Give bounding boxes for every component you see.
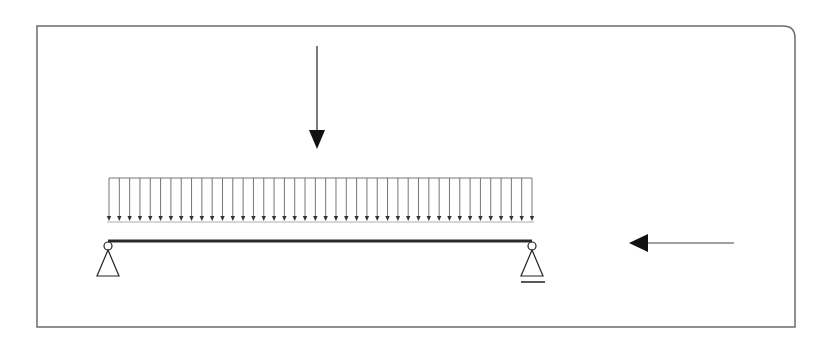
- distributed-load-arrowhead: [365, 216, 369, 221]
- distributed-load-arrowhead: [323, 216, 327, 221]
- diagram-canvas: [0, 0, 829, 344]
- distributed-load-arrow: [519, 178, 523, 221]
- distributed-load-arrowhead: [499, 216, 503, 221]
- distributed-load-arrow: [303, 178, 307, 221]
- distributed-load-arrow: [117, 178, 121, 221]
- distributed-load-arrowhead: [272, 216, 276, 221]
- distributed-load-arrowhead: [509, 216, 513, 221]
- frame-border: [37, 26, 795, 327]
- distributed-load-arrow: [530, 178, 534, 221]
- distributed-load-arrowhead: [262, 216, 266, 221]
- distributed-load-arrow: [478, 178, 482, 221]
- distributed-load-arrowhead: [385, 216, 389, 221]
- distributed-load-arrowhead: [530, 216, 534, 221]
- distributed-load-arrowhead: [179, 216, 183, 221]
- pin-triangle: [97, 250, 119, 276]
- roller-support-right: [521, 242, 545, 282]
- distributed-load-arrowhead: [210, 216, 214, 221]
- point-load-arrowhead: [309, 130, 325, 149]
- pin-support-left: [97, 242, 119, 276]
- distributed-load-arrow: [458, 178, 462, 221]
- distributed-load-arrow: [509, 178, 513, 221]
- distributed-load-arrowhead: [468, 216, 472, 221]
- distributed-load-arrowhead: [220, 216, 224, 221]
- distributed-load-arrow: [385, 178, 389, 221]
- distributed-load-arrow: [127, 178, 131, 221]
- distributed-load-arrowhead: [282, 216, 286, 221]
- distributed-load-arrowhead: [354, 216, 358, 221]
- distributed-load-arrowhead: [117, 216, 121, 221]
- distributed-load-arrowhead: [127, 216, 131, 221]
- beam-diagram: [0, 0, 829, 344]
- distributed-load-arrowhead: [303, 216, 307, 221]
- distributed-load-arrowhead: [251, 216, 255, 221]
- distributed-load-arrow: [375, 178, 379, 221]
- distributed-load-arrow: [334, 178, 338, 221]
- distributed-load-arrow: [138, 178, 142, 221]
- distributed-load-arrow: [416, 178, 420, 221]
- distributed-load-arrowhead: [437, 216, 441, 221]
- distributed-load-arrowhead: [406, 216, 410, 221]
- distributed-load-arrowhead: [107, 216, 111, 221]
- distributed-load-arrow: [427, 178, 431, 221]
- distributed-load-arrowhead: [148, 216, 152, 221]
- distributed-load-arrow: [231, 178, 235, 221]
- distributed-load-arrowhead: [447, 216, 451, 221]
- distributed-load-arrowhead: [416, 216, 420, 221]
- distributed-load-arrow: [282, 178, 286, 221]
- distributed-load-arrowhead: [478, 216, 482, 221]
- distributed-load-arrowhead: [489, 216, 493, 221]
- distributed-load-arrow: [179, 178, 183, 221]
- distributed-load-arrowhead: [519, 216, 523, 221]
- roller-triangle: [521, 250, 543, 276]
- distributed-load-arrow: [262, 178, 266, 221]
- distributed-load-arrow: [169, 178, 173, 221]
- distributed-load-arrowhead: [396, 216, 400, 221]
- distributed-load-arrow: [158, 178, 162, 221]
- distributed-load-arrow: [220, 178, 224, 221]
- distributed-load-arrowhead: [231, 216, 235, 221]
- distributed-load-arrowhead: [169, 216, 173, 221]
- distributed-load-arrow: [365, 178, 369, 221]
- distributed-load-arrow: [437, 178, 441, 221]
- distributed-load-arrow: [323, 178, 327, 221]
- distributed-load-arrowhead: [427, 216, 431, 221]
- distributed-load-arrow: [210, 178, 214, 221]
- distributed-load-arrow: [344, 178, 348, 221]
- distributed-load-arrowhead: [158, 216, 162, 221]
- distributed-load-arrow: [148, 178, 152, 221]
- distributed-load-arrow: [468, 178, 472, 221]
- distributed-load-arrow: [406, 178, 410, 221]
- distributed-load-arrow: [200, 178, 204, 221]
- distributed-load-arrow: [107, 178, 111, 221]
- distributed-load-arrow: [313, 178, 317, 221]
- distributed-load-arrowhead: [189, 216, 193, 221]
- distributed-load-arrowhead: [293, 216, 297, 221]
- distributed-load-arrowhead: [313, 216, 317, 221]
- distributed-load-arrowhead: [200, 216, 204, 221]
- distributed-load-arrowhead: [138, 216, 142, 221]
- point-load-arrow: [309, 46, 325, 149]
- distributed-load-arrow: [189, 178, 193, 221]
- distributed-load-arrow: [354, 178, 358, 221]
- distributed-load-arrow: [272, 178, 276, 221]
- distributed-load-arrow: [251, 178, 255, 221]
- distributed-load-arrow: [499, 178, 503, 221]
- distributed-load-arrow: [447, 178, 451, 221]
- distributed-load-arrowhead: [334, 216, 338, 221]
- distributed-load-arrow: [241, 178, 245, 221]
- distributed-load-arrowhead: [375, 216, 379, 221]
- distributed-load-arrowhead: [458, 216, 462, 221]
- distributed-load-arrow: [396, 178, 400, 221]
- distributed-load-arrow: [489, 178, 493, 221]
- axial-load-arrow: [629, 234, 734, 252]
- distributed-load: [107, 178, 534, 222]
- axial-load-arrowhead: [629, 234, 648, 252]
- distributed-load-arrowhead: [241, 216, 245, 221]
- distributed-load-arrowhead: [344, 216, 348, 221]
- distributed-load-arrow: [293, 178, 297, 221]
